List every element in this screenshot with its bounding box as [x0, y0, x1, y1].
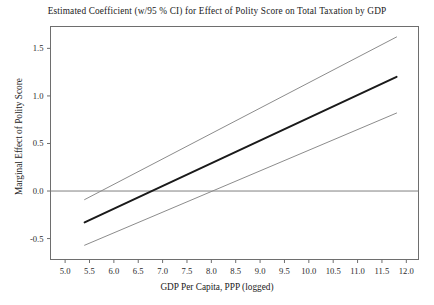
y-axis-tick-label: 0.0 [33, 186, 44, 196]
y-axis-tick-label: -0.5 [30, 234, 44, 244]
x-axis-tick-label: 5.5 [84, 266, 95, 276]
x-axis-tick-label: 6.0 [108, 266, 119, 276]
x-axis-tick-label: 7.5 [182, 266, 193, 276]
x-axis-tick-label: 8.0 [206, 266, 217, 276]
x-axis-tick-label: 11.0 [350, 266, 365, 276]
x-axis-tick-label: 12.0 [399, 266, 414, 276]
plot-canvas [0, 0, 434, 305]
x-axis-tick-label: 9.5 [279, 266, 290, 276]
x-axis-tick-label: 7.0 [157, 266, 168, 276]
x-axis-tick-label: 9.0 [255, 266, 266, 276]
y-axis-tick-label: 1.5 [33, 43, 44, 53]
x-axis-tick-label: 11.5 [375, 266, 390, 276]
y-axis-ticks [47, 48, 51, 238]
x-axis-tick-label: 8.5 [230, 266, 241, 276]
chart-figure: Estimated Coefficient (w/95 % CI) for Ef… [0, 0, 434, 305]
x-axis-tick-label: 5.0 [60, 266, 71, 276]
x-axis-tick-label: 10.5 [326, 266, 341, 276]
axis-frame [51, 27, 419, 260]
x-axis-tick-label: 10.0 [301, 266, 316, 276]
y-axis-tick-label: 1.0 [33, 91, 44, 101]
y-axis-tick-label: 0.5 [33, 138, 44, 148]
x-axis-tick-label: 6.5 [133, 266, 144, 276]
x-axis-ticks [65, 260, 406, 264]
